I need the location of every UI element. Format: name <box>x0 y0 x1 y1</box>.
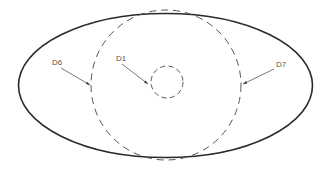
label-d7-group: D7 <box>243 60 287 84</box>
outer-ellipse <box>19 14 313 158</box>
label-d1-group: D1 <box>116 54 148 84</box>
label-d1: D1 <box>116 54 127 63</box>
arrowhead-d6-icon <box>86 82 90 85</box>
large-dashed-circle <box>91 10 241 160</box>
leader-line-d6 <box>61 68 90 85</box>
label-d7: D7 <box>276 60 287 69</box>
leader-line-d7 <box>243 69 274 84</box>
small-dashed-circle <box>151 66 183 98</box>
label-d6-group: D6 <box>52 58 90 85</box>
leader-line-d1 <box>122 64 148 84</box>
arrowhead-d7-icon <box>243 81 247 84</box>
label-d6: D6 <box>52 58 63 67</box>
diagram-canvas: D6 D1 D7 <box>0 0 329 169</box>
